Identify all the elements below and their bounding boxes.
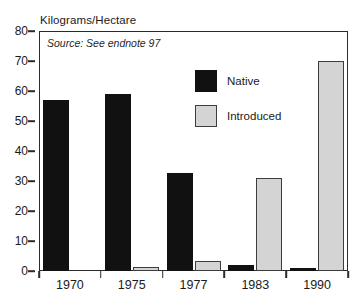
bar-native-1990 [290, 268, 316, 271]
legend-item-native: Native [195, 70, 281, 92]
bar-introduced-1975 [133, 267, 159, 272]
legend-label-introduced: Introduced [227, 110, 281, 122]
bar-group-container [0, 0, 361, 306]
bar-native-1983 [228, 265, 254, 271]
bar-introduced-1977 [195, 261, 221, 272]
bar-native-1970 [43, 100, 69, 271]
legend-swatch-native-icon [195, 70, 217, 92]
bar-introduced-1990 [318, 61, 344, 271]
legend-label-native: Native [227, 75, 260, 87]
legend: Native Introduced [195, 70, 281, 140]
bar-chart-figure: Kilograms/Hectare Source: See endnote 97… [0, 0, 361, 306]
bar-native-1977 [167, 173, 193, 271]
legend-item-introduced: Introduced [195, 105, 281, 127]
bar-introduced-1983 [256, 178, 282, 271]
bar-native-1975 [105, 94, 131, 271]
legend-swatch-introduced-icon [195, 105, 217, 127]
